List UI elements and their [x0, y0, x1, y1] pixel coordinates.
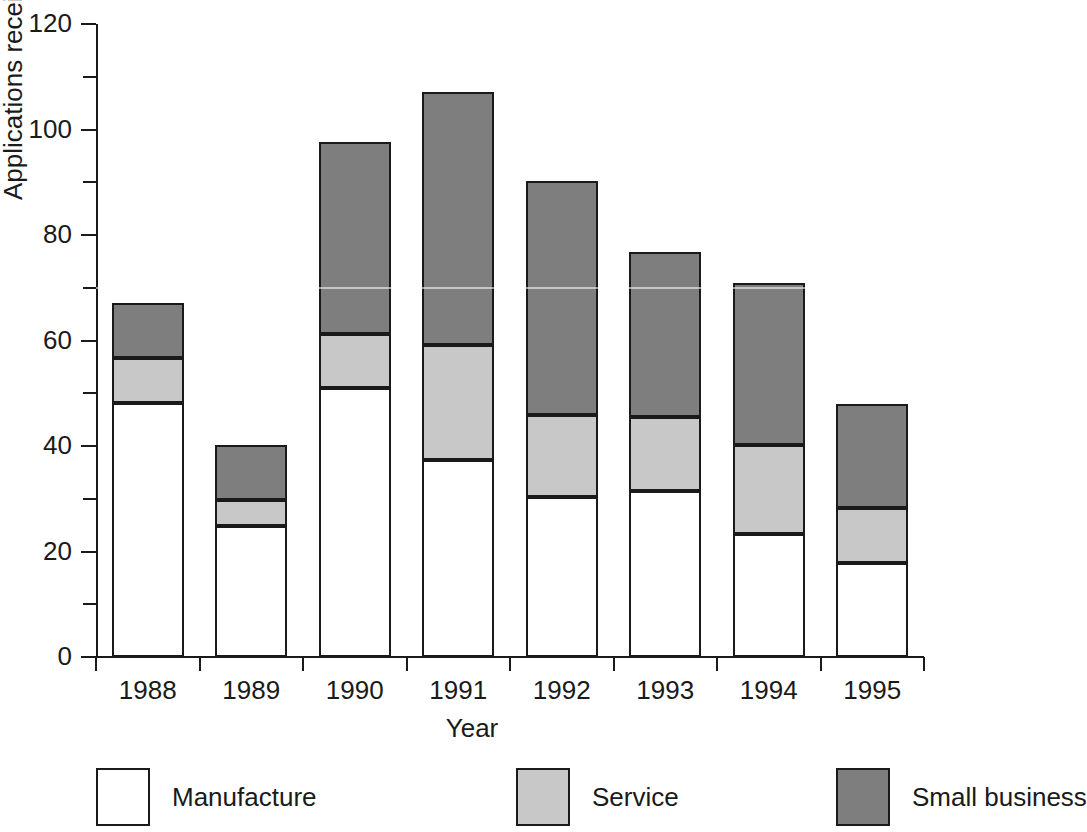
bar-segment-smallbiz — [112, 303, 184, 358]
legend-swatch-service — [516, 768, 570, 826]
legend-item-manufacture[interactable]: Manufacture — [96, 768, 317, 826]
bar-segment-service — [112, 358, 184, 403]
bar-segment-service — [836, 508, 908, 563]
bar-segment-service — [526, 415, 598, 497]
bar-segment-service — [319, 334, 391, 388]
chart-legend: ManufactureServiceSmall business — [0, 768, 944, 832]
bar-segment-manufacture — [112, 403, 184, 657]
bar-segment-manufacture — [422, 460, 494, 657]
bar-segment-service — [629, 417, 701, 491]
bar-segment-smallbiz — [319, 142, 391, 334]
legend-label: Small business — [912, 782, 1087, 812]
bar-segment-smallbiz — [733, 283, 805, 445]
bar-segment-manufacture — [836, 563, 908, 657]
legend-label: Manufacture — [172, 782, 317, 812]
bar-segment-manufacture — [526, 497, 598, 657]
bar-segment-service — [215, 500, 287, 526]
bar-segment-service — [733, 445, 805, 534]
legend-swatch-smallbiz — [836, 768, 890, 826]
legend-item-service[interactable]: Service — [516, 768, 679, 826]
legend-swatch-manufacture — [96, 768, 150, 826]
bar-segment-manufacture — [629, 491, 701, 657]
bar-segment-smallbiz — [629, 252, 701, 417]
bar-segment-smallbiz — [422, 92, 494, 345]
bar-segment-manufacture — [215, 526, 287, 657]
bar-segment-smallbiz — [526, 181, 598, 415]
legend-label: Service — [592, 782, 679, 812]
bar-segment-manufacture — [319, 388, 391, 657]
bar-segment-smallbiz — [836, 404, 908, 508]
bar-segment-smallbiz — [215, 445, 287, 500]
legend-item-smallbiz[interactable]: Small business — [836, 768, 1087, 826]
bar-segment-service — [422, 345, 494, 460]
bar-segment-manufacture — [733, 534, 805, 657]
